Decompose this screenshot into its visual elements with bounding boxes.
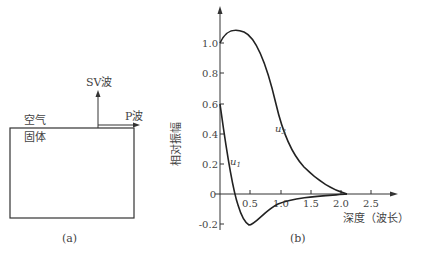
y-axis-label: 相对振幅 xyxy=(169,122,183,166)
svg-text:0: 0 xyxy=(210,189,216,200)
sv-wave-label: SV波 xyxy=(86,76,112,89)
p-arrowhead-icon xyxy=(133,123,140,128)
svg-text:-0.2: -0.2 xyxy=(199,219,218,230)
u1-label: u1 xyxy=(230,156,241,169)
svg-text:2.5: 2.5 xyxy=(363,198,379,209)
x-axis-label: 深度（波长） xyxy=(343,211,409,225)
svg-text:1.5: 1.5 xyxy=(303,198,319,209)
solid-label: 固体 xyxy=(24,130,46,144)
svg-text:0.2: 0.2 xyxy=(202,159,218,170)
caption-b: (b) xyxy=(290,232,306,245)
svg-text:0.8: 0.8 xyxy=(202,68,218,79)
figure: SV波 P波 空气 固体 (a) 1.0 0.8 0.6 0.4 0.2 0 -… xyxy=(0,0,429,253)
svg-text:0.5: 0.5 xyxy=(242,198,258,209)
svg-text:0.6: 0.6 xyxy=(202,99,218,110)
x-ticks xyxy=(250,190,371,194)
y-tick-labels: 1.0 0.8 0.6 0.4 0.2 0 -0.2 xyxy=(199,38,218,230)
sv-arrowhead-icon xyxy=(96,90,101,97)
svg-text:2.0: 2.0 xyxy=(333,198,349,209)
caption-a: (a) xyxy=(62,232,77,245)
svg-text:0.4: 0.4 xyxy=(202,129,218,140)
y-arrowhead-icon xyxy=(218,6,223,14)
p-wave-label: P波 xyxy=(125,110,143,123)
panel-b: 1.0 0.8 0.6 0.4 0.2 0 -0.2 0.5 1.0 1.5 2… xyxy=(169,6,409,245)
air-label: 空气 xyxy=(24,113,46,127)
x-arrowhead-icon xyxy=(390,192,398,197)
panel-a: SV波 P波 空气 固体 (a) xyxy=(10,76,143,245)
x-tick-labels: 0.5 1.0 1.5 2.0 2.5 xyxy=(242,198,379,209)
u3-label: u3 xyxy=(275,123,286,136)
u3-curve xyxy=(220,30,347,194)
svg-text:1.0: 1.0 xyxy=(202,38,218,49)
